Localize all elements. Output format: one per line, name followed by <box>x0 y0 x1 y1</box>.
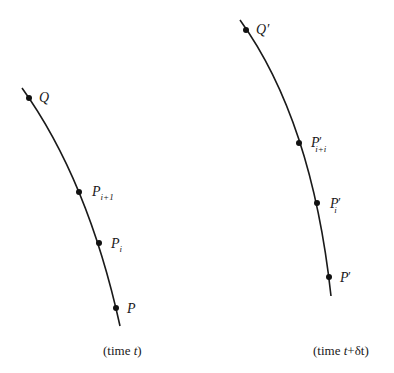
label-p: P <box>126 301 136 316</box>
point-p-prime-i <box>314 200 320 206</box>
point-p-i-plus-1 <box>76 189 82 195</box>
material-curve-diagram: Q Pi+1 Pi P (time t) Q′ P′i+i P′i <box>0 0 394 373</box>
point-p <box>113 305 119 311</box>
material-curve-time-t <box>22 88 120 326</box>
label-q-prime: Q′ <box>256 22 270 37</box>
label-p-prime-i-plus-i: P′i+i <box>310 134 327 154</box>
caption-time-t-plus-dt: (time t+δt) <box>313 343 369 358</box>
point-q <box>26 95 32 101</box>
right-panel: Q′ P′i+i P′i P′ (time t+δt) <box>240 20 369 358</box>
label-p-i-plus-1: Pi+1 <box>91 184 114 202</box>
point-p-prime <box>326 274 332 280</box>
material-curve-time-t-plus-dt <box>240 20 331 296</box>
point-p-prime-i-plus-i <box>296 140 302 146</box>
label-q: Q <box>39 90 49 105</box>
caption-time-t: (time t) <box>103 343 142 358</box>
left-panel: Q Pi+1 Pi P (time t) <box>22 88 142 358</box>
label-p-i: Pi <box>110 236 123 254</box>
point-p-i <box>96 240 102 246</box>
label-p-prime-i: P′i <box>329 195 341 215</box>
point-q-prime <box>243 27 249 33</box>
label-p-prime: P′ <box>339 269 351 285</box>
